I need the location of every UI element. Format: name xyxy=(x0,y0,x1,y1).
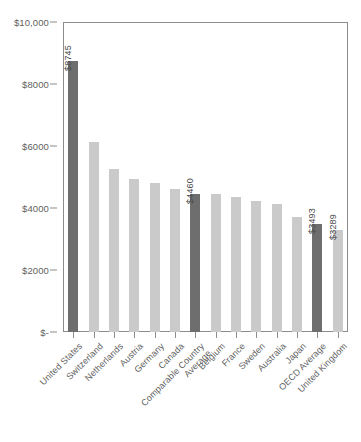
bar-slot xyxy=(246,22,266,332)
x-tick-mark xyxy=(256,332,257,338)
y-tick-mark xyxy=(50,270,57,271)
y-tick-mark xyxy=(50,146,57,147)
bar[interactable]: $8745 xyxy=(68,61,78,332)
bar-slot: $3493 xyxy=(307,22,327,332)
x-tick-mark xyxy=(155,332,156,338)
y-tick-mark xyxy=(50,22,57,23)
x-tick-mark xyxy=(297,332,298,338)
y-tick-label: $4000 xyxy=(22,203,49,214)
bar-slot xyxy=(124,22,144,332)
bar[interactable] xyxy=(129,179,139,332)
x-axis: United StatesSwitzerlandNetherlandsAustr… xyxy=(63,332,348,442)
x-tick-mark xyxy=(73,332,74,338)
x-tick-mark xyxy=(338,332,339,338)
bar-slot xyxy=(267,22,287,332)
bar-value-label: $8745 xyxy=(63,45,73,71)
y-tick-mark xyxy=(50,332,57,333)
y-tick-label: $6000 xyxy=(22,141,49,152)
x-tick-mark xyxy=(277,332,278,338)
bar[interactable]: $3493 xyxy=(312,224,322,332)
bar[interactable] xyxy=(292,217,302,332)
x-tick-mark xyxy=(134,332,135,338)
bars-layer: $8745$4460$3493$3289 xyxy=(63,22,348,332)
x-tick-mark xyxy=(195,332,196,338)
bar[interactable]: $3289 xyxy=(333,230,343,332)
y-tick-mark xyxy=(50,84,57,85)
bar[interactable] xyxy=(272,204,282,332)
bar-chart: $10,000$8000$6000$4000$2000$- $8745$4460… xyxy=(0,0,361,442)
bar-slot xyxy=(104,22,124,332)
bar-slot xyxy=(206,22,226,332)
y-tick-mark xyxy=(50,208,57,209)
bar[interactable] xyxy=(150,183,160,332)
bar[interactable] xyxy=(251,201,261,332)
x-tick-mark xyxy=(317,332,318,338)
bar-value-label: $3493 xyxy=(307,208,317,234)
bar-slot xyxy=(165,22,185,332)
x-tick-mark xyxy=(216,332,217,338)
bar[interactable] xyxy=(231,197,241,332)
y-tick-label: $8000 xyxy=(22,79,49,90)
x-tick-mark xyxy=(236,332,237,338)
bar-slot: $8745 xyxy=(63,22,83,332)
bar-value-label: $3289 xyxy=(328,214,338,240)
bar[interactable] xyxy=(109,169,119,332)
bar[interactable] xyxy=(170,189,180,332)
bar-value-label: $4460 xyxy=(185,178,195,204)
x-tick-mark xyxy=(175,332,176,338)
bar[interactable]: $4460 xyxy=(190,194,200,332)
bar-slot xyxy=(287,22,307,332)
bar-slot xyxy=(83,22,103,332)
bar-slot xyxy=(144,22,164,332)
bar-slot: $4460 xyxy=(185,22,205,332)
y-tick-label: $- xyxy=(40,327,49,338)
y-tick-label: $2000 xyxy=(22,265,49,276)
bar-slot: $3289 xyxy=(328,22,348,332)
bar[interactable] xyxy=(211,194,221,332)
x-tick-mark xyxy=(94,332,95,338)
x-tick-mark xyxy=(114,332,115,338)
bar-slot xyxy=(226,22,246,332)
y-tick-label: $10,000 xyxy=(14,17,49,28)
bar[interactable] xyxy=(89,142,99,332)
